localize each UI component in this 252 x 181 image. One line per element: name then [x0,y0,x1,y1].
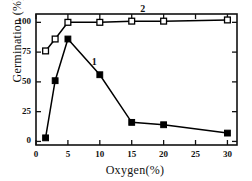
x-tick-label: 0 [26,149,46,159]
y-tick-label: 50 [5,76,31,86]
series-label-1: 1 [92,56,97,67]
y-tick-label: 0 [5,135,31,145]
axis-ticks [36,14,237,145]
axis-frame [36,14,237,145]
y-tick-label: 75 [5,46,31,56]
y-tick-label: 100 [5,16,31,26]
x-tick-label: 5 [58,149,78,159]
x-axis-label: Oxygen(%) [0,163,252,178]
germination-oxygen-chart: Germination (%) Oxygen(%) 0255075100 051… [0,0,252,181]
x-tick-label: 10 [90,149,110,159]
x-tick-label: 25 [186,149,206,159]
x-axis-label-text: Oxygen(%) [88,163,165,177]
x-tick-label: 30 [217,149,237,159]
x-tick-label: 15 [122,149,142,159]
series-label-2: 2 [140,3,145,14]
x-tick-label: 20 [154,149,174,159]
data-series-group [43,17,231,141]
y-tick-label: 25 [5,106,31,116]
